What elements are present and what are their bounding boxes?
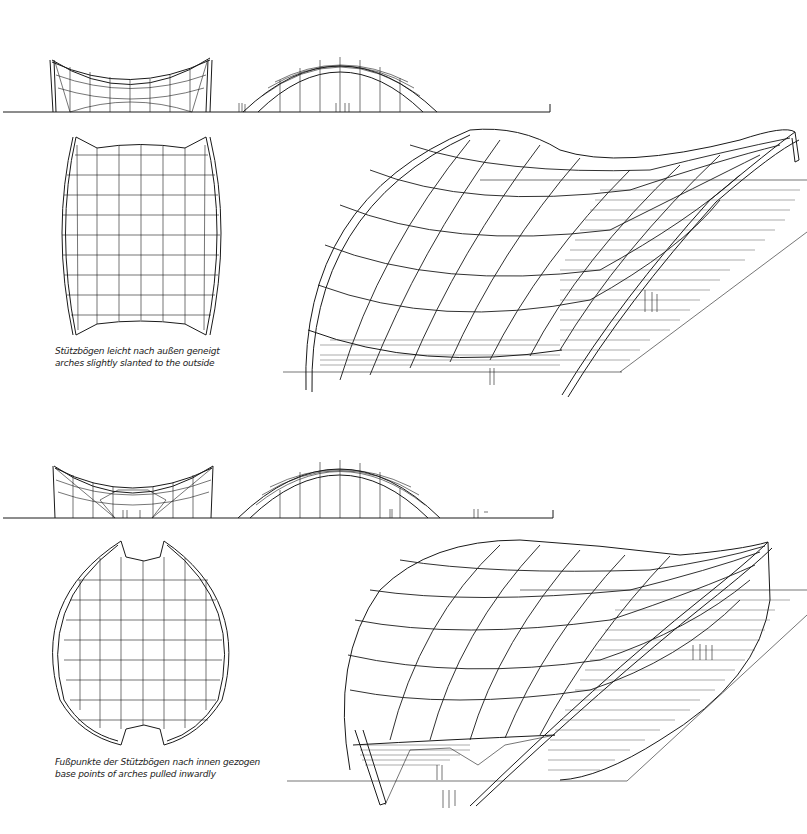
perspective-variant-2 <box>0 0 807 834</box>
